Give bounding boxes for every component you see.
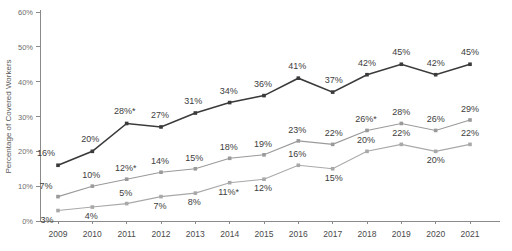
data-point-label: 34% (220, 86, 238, 96)
y-tick-label: 0% (22, 217, 33, 226)
data-point-label: 7% (153, 201, 166, 211)
y-tick-label: 20% (18, 147, 33, 156)
data-point-marker (400, 62, 404, 66)
data-point-marker (434, 129, 438, 133)
data-point-marker (331, 143, 335, 147)
data-point-marker (228, 181, 232, 185)
data-point-label: 12%* (115, 163, 137, 173)
data-point-marker (228, 157, 232, 161)
data-point-label: 8% (188, 197, 201, 207)
data-point-label: 42% (358, 58, 376, 68)
data-point-label: 37% (325, 75, 343, 85)
data-point-label: 26%* (355, 114, 377, 124)
x-tick-label: 2019 (392, 229, 411, 239)
data-point-marker (194, 167, 198, 171)
data-point-label: 18% (220, 142, 238, 152)
y-tick-label: 10% (18, 182, 33, 191)
data-point-marker (400, 122, 404, 126)
data-point-label: 41% (288, 61, 306, 71)
data-point-label: 4% (85, 211, 98, 221)
x-tick-label: 2017 (323, 229, 342, 239)
x-tick-label: 2020 (426, 229, 445, 239)
data-point-marker (365, 150, 369, 154)
data-point-marker (468, 62, 472, 66)
data-point-label: 16% (288, 149, 306, 159)
x-tick-label: 2012 (152, 229, 171, 239)
data-point-marker (159, 170, 163, 174)
y-tick-label: 30% (18, 113, 33, 122)
data-point-marker (468, 143, 472, 147)
data-point-marker (365, 73, 369, 77)
data-point-marker (91, 150, 95, 154)
data-point-marker (297, 76, 301, 80)
data-point-marker (125, 177, 129, 181)
x-tick-label: 2011 (118, 229, 137, 239)
data-point-marker (228, 101, 232, 105)
data-point-label: 23% (288, 125, 306, 135)
data-point-marker (194, 111, 198, 115)
data-point-label: 19% (254, 139, 272, 149)
x-tick-label: 2010 (83, 229, 102, 239)
data-point-label: 45% (392, 47, 410, 57)
data-point-label: 7% (39, 181, 52, 191)
line-chart: 0%10%20%30%40%50%60%Percentage of Covere… (0, 0, 512, 251)
data-point-marker (91, 205, 95, 209)
data-point-marker (56, 195, 60, 199)
data-point-label: 42% (427, 58, 445, 68)
data-point-label: 20% (81, 134, 99, 144)
data-point-marker (297, 139, 301, 143)
data-point-marker (365, 129, 369, 133)
x-tick-label: 2018 (358, 229, 377, 239)
data-point-marker (262, 177, 266, 181)
data-point-label: 26% (427, 114, 445, 124)
data-point-label: 15% (325, 173, 343, 183)
data-point-label: 20% (357, 135, 375, 145)
data-point-label: 15% (185, 153, 203, 163)
x-tick-label: 2015 (255, 229, 274, 239)
chart-container: 0%10%20%30%40%50%60%Percentage of Covere… (0, 0, 512, 251)
y-tick-label: 40% (18, 78, 33, 87)
data-point-label: 20% (427, 155, 445, 165)
data-point-label: 16% (37, 148, 55, 158)
data-point-marker (262, 94, 266, 98)
data-point-label: 29% (461, 104, 479, 114)
y-axis-title: Percentage of Covered Workers (4, 59, 13, 173)
data-point-marker (262, 153, 266, 157)
data-point-label: 36% (254, 79, 272, 89)
data-point-label: 3% (40, 215, 53, 225)
data-point-label: 10% (82, 170, 100, 180)
data-point-marker (468, 118, 472, 122)
data-point-label: 45% (461, 47, 479, 57)
data-point-marker (400, 143, 404, 147)
data-point-label: 5% (119, 188, 132, 198)
y-tick-label: 60% (18, 8, 33, 17)
data-point-label: 28%* (114, 106, 136, 116)
data-point-marker (194, 191, 198, 195)
data-point-marker (331, 90, 335, 94)
data-point-marker (125, 202, 129, 206)
data-point-marker (331, 167, 335, 171)
x-tick-label: 2013 (186, 229, 205, 239)
data-point-label: 22% (325, 128, 343, 138)
data-point-marker (159, 125, 163, 129)
data-point-marker (91, 184, 95, 188)
data-point-marker (159, 195, 163, 199)
data-point-label: 22% (461, 128, 479, 138)
data-point-label: 31% (184, 96, 202, 106)
data-point-marker (125, 122, 129, 126)
data-point-label: 11%* (218, 187, 239, 197)
x-tick-label: 2021 (461, 229, 480, 239)
data-point-marker (56, 163, 60, 167)
y-tick-label: 50% (18, 43, 33, 52)
x-tick-label: 2009 (49, 229, 68, 239)
data-point-label: 27% (151, 110, 169, 120)
data-point-marker (434, 150, 438, 154)
x-tick-label: 2016 (289, 229, 308, 239)
data-point-label: 14% (151, 156, 169, 166)
data-point-label: 22% (392, 128, 410, 138)
data-point-label: 12% (254, 183, 272, 193)
data-point-label: 28% (392, 107, 410, 117)
x-tick-label: 2014 (220, 229, 239, 239)
data-point-marker (297, 163, 301, 167)
data-point-marker (434, 73, 438, 77)
